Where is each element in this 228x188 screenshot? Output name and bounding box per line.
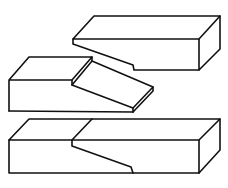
assembled-joint — [9, 119, 220, 173]
scarf-joint-diagram — [0, 0, 228, 188]
